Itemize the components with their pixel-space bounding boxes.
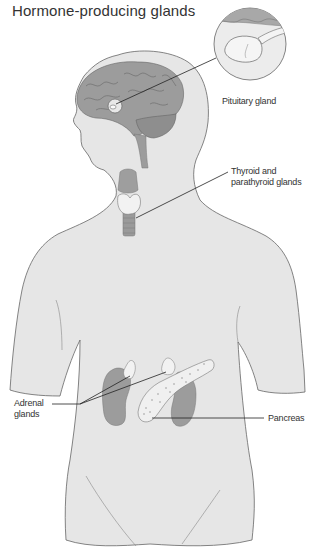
thyroid-gland (118, 194, 141, 214)
pituitary-label: Pituitary gland (222, 96, 276, 107)
larynx (118, 169, 138, 193)
thyroid-label-line1: Thyroid and (231, 166, 276, 177)
pituitary-zoom-inset (212, 8, 290, 80)
human-body-diagram (0, 0, 312, 559)
adrenal-label-line1: Adrenal (14, 398, 44, 409)
thyroid-label-line2: parathyroid glands (231, 177, 301, 188)
pancreas-label: Pancreas (268, 413, 304, 424)
adrenal-label-line2: glands (14, 409, 39, 420)
